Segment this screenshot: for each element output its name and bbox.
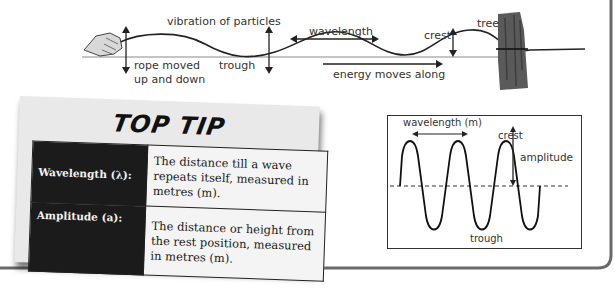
vibration-arrow-left	[122, 26, 130, 74]
vibration-of-particles-label: vibration of particles	[167, 15, 281, 28]
graph-crest-label: crest	[498, 129, 523, 142]
graph-wavelength-label: wavelength (m)	[403, 116, 482, 129]
rope-moved-label-line2: up and down	[134, 73, 205, 86]
term-wavelength: Wavelength (λ):	[31, 141, 148, 206]
sine-wave	[400, 141, 540, 230]
trough-label: trough	[219, 59, 255, 72]
sine-wave-plot	[388, 116, 581, 248]
wave-graph: wavelength (m) crest amplitude trough	[387, 115, 582, 249]
top-tip-table: Wavelength (λ): The distance till a wave…	[28, 140, 328, 281]
energy-moves-along-label: energy moves along	[333, 68, 445, 81]
top-tip-card: TOP TIP Wavelength (λ): The distance til…	[14, 96, 320, 272]
definition-amplitude: The distance or height from the rest pos…	[143, 206, 325, 281]
wavelength-arrow	[412, 131, 468, 137]
vibration-arrow-middle	[265, 26, 273, 74]
term-amplitude: Amplitude (a):	[28, 202, 145, 275]
table-row: Wavelength (λ): The distance till a wave…	[31, 141, 328, 212]
graph-trough-label: trough	[470, 232, 503, 245]
definition-wavelength: The distance till a wave repeats itself,…	[146, 145, 328, 212]
wavelength-label: wavelength	[309, 25, 373, 38]
tree-trunk-icon	[496, 12, 528, 90]
graph-amplitude-label: amplitude	[520, 151, 573, 164]
rope-moved-label-line1: rope moved	[134, 59, 200, 72]
hand-icon	[84, 33, 122, 56]
crest-label: crest	[424, 29, 451, 42]
top-tip-title: TOP TIP	[17, 106, 322, 144]
energy-arrow	[323, 60, 443, 68]
table-row: Amplitude (a): The distance or height fr…	[28, 202, 325, 281]
tree-label: tree	[477, 17, 499, 30]
rope-wave-illustration	[0, 0, 614, 100]
